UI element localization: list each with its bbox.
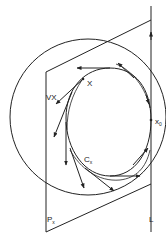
plane-px <box>46 20 151 232</box>
gradient-arrow <box>56 79 83 104</box>
label-x0-sub: 0 <box>159 121 162 127</box>
label-x0: x0 <box>155 117 162 127</box>
tangent-arrow <box>118 63 134 78</box>
sphere-circle <box>10 39 166 195</box>
point-x <box>82 78 85 81</box>
point-x0 <box>150 119 153 122</box>
diagram-canvas: VX X x0 Cx Px L <box>0 0 166 240</box>
tangent-arrow <box>70 148 84 188</box>
label-x: X <box>87 79 93 88</box>
label-px: Px <box>47 215 55 225</box>
label-px-sub: x <box>52 219 55 225</box>
label-cx: Cx <box>84 155 93 165</box>
label-l: L <box>149 215 154 224</box>
label-grad-x: VX <box>46 93 57 102</box>
tangent-arrow <box>54 92 72 137</box>
label-cx-sub: x <box>90 159 93 165</box>
